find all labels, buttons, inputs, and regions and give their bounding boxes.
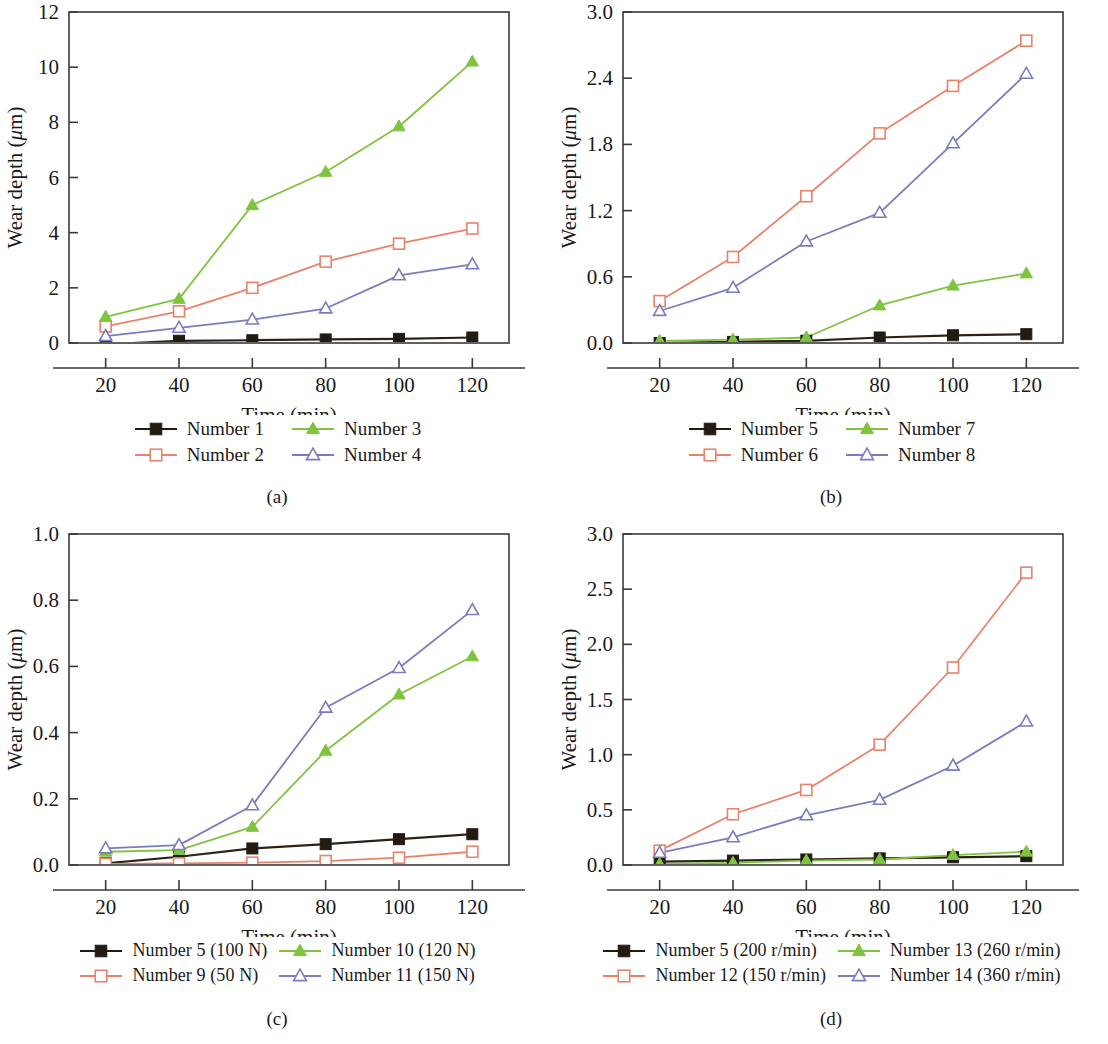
legend-item[interactable]: Number 9 (50 N)	[78, 965, 267, 986]
legend-item-label: Number 14 (360 r/min)	[890, 965, 1061, 986]
legend-item[interactable]: Number 5 (200 r/min)	[601, 940, 826, 961]
legend-item[interactable]: Number 6	[687, 444, 818, 466]
legend-marker-open-square	[78, 966, 124, 986]
legend-item[interactable]: Number 12 (150 r/min)	[601, 965, 826, 986]
x-tick-label: 40	[723, 373, 744, 397]
y-tick-label: 1.5	[587, 688, 613, 712]
data-point-marker	[948, 662, 959, 673]
y-tick-label: 0.5	[587, 798, 613, 822]
legend-marker-open-square	[601, 966, 647, 986]
data-point-marker	[1021, 567, 1032, 578]
legend-item-label: Number 5 (100 N)	[132, 940, 267, 961]
series-line	[106, 62, 473, 317]
data-point-marker	[1021, 35, 1032, 46]
y-tick-label: 0.2	[33, 787, 59, 811]
y-tick-label: 0.0	[587, 853, 613, 877]
legend-item-label: Number 1	[187, 418, 264, 440]
y-tick-label: 1.0	[33, 522, 59, 546]
data-point-marker	[947, 759, 959, 770]
legend-item-label: Number 7	[898, 418, 975, 440]
x-tick-label: 40	[723, 895, 744, 919]
y-tick-label: 2.0	[587, 632, 613, 656]
legend-marker-filled-square	[601, 941, 647, 961]
y-tick-label: 0.8	[33, 588, 59, 612]
data-point-marker	[247, 857, 258, 868]
y-tick-label: 2.5	[587, 577, 613, 601]
legend-item-label: Number 9 (50 N)	[132, 965, 258, 986]
data-point-marker	[173, 839, 185, 850]
legend-c: Number 5 (100 N)Number 10 (120 N)Number …	[0, 940, 554, 986]
x-tick-label: 20	[95, 373, 116, 397]
legend-item[interactable]: Number 1	[133, 418, 264, 440]
data-point-marker	[174, 335, 185, 346]
legend-item[interactable]: Number 3	[290, 418, 421, 440]
legend-item[interactable]: Number 8	[844, 444, 975, 466]
legend-marker-filled-triangle	[277, 941, 323, 961]
legend-item-label: Number 3	[344, 418, 421, 440]
x-tick-label: 20	[649, 895, 670, 919]
series-line	[106, 834, 473, 863]
y-tick-label: 0.0	[33, 853, 59, 877]
x-tick-label: 100	[937, 373, 969, 397]
x-tick-label: 60	[242, 895, 263, 919]
legend-item[interactable]: Number 13 (260 r/min)	[836, 940, 1061, 961]
series-layer	[654, 35, 1033, 348]
legend-item[interactable]: Number 7	[844, 418, 975, 440]
legend-marker-filled-square	[78, 941, 124, 961]
data-point-marker	[727, 281, 739, 292]
legend-item[interactable]: Number 5	[687, 418, 818, 440]
y-axis-title: Wear depth (μm)	[557, 629, 581, 771]
y-tick-label: 0.6	[587, 265, 613, 289]
data-point-marker	[320, 166, 332, 177]
data-point-marker	[320, 839, 331, 850]
legend-item[interactable]: Number 2	[133, 444, 264, 466]
x-axis-title: Time (min)	[241, 403, 336, 415]
x-tick-label: 40	[169, 373, 190, 397]
x-tick-label: 120	[1011, 373, 1043, 397]
legend-marker-filled-triangle	[844, 419, 890, 439]
series-line	[660, 334, 1027, 343]
data-point-marker	[467, 846, 478, 857]
x-tick-label: 80	[869, 895, 890, 919]
data-point-marker	[801, 191, 812, 202]
x-tick-label: 40	[169, 895, 190, 919]
data-point-marker	[394, 852, 405, 863]
data-point-marker	[394, 834, 405, 845]
legend-a: Number 1Number 3Number 2Number 4	[0, 418, 554, 466]
legend-item-label: Number 8	[898, 444, 975, 466]
legend-item[interactable]: Number 4	[290, 444, 421, 466]
legend-item-label: Number 12 (150 r/min)	[655, 965, 826, 986]
legend-item[interactable]: Number 11 (150 N)	[277, 965, 475, 986]
data-point-marker	[320, 701, 332, 712]
data-point-marker	[320, 256, 331, 267]
legend-marker-open-square	[133, 445, 179, 465]
y-tick-label: 10	[38, 55, 59, 79]
chart-plot: 0.00.51.01.52.02.53.020406080100120Time …	[554, 522, 1108, 937]
series-line	[106, 610, 473, 848]
data-point-marker	[948, 330, 959, 341]
data-point-marker	[948, 80, 959, 91]
x-tick-label: 20	[649, 373, 670, 397]
chart-plot: 02468101220406080100120Time (min)Wear de…	[0, 0, 554, 415]
legend-item[interactable]: Number 10 (120 N)	[277, 940, 475, 961]
x-tick-label: 60	[796, 373, 817, 397]
y-tick-label: 2.4	[587, 66, 614, 90]
series-line	[660, 722, 1027, 853]
series-line	[660, 74, 1027, 311]
data-point-marker	[466, 604, 478, 615]
figure-grid: 02468101220406080100120Time (min)Wear de…	[0, 0, 1108, 1044]
chart-panel-b: 0.00.61.21.82.43.020406080100120Time (mi…	[554, 0, 1108, 522]
legend-item[interactable]: Number 14 (360 r/min)	[836, 965, 1061, 986]
legend-marker-open-triangle	[277, 966, 323, 986]
chart-b: 0.00.61.21.82.43.020406080100120Time (mi…	[554, 0, 1108, 415]
legend-item[interactable]: Number 5 (100 N)	[78, 940, 267, 961]
x-axis-title: Time (min)	[795, 925, 890, 937]
data-point-marker	[728, 809, 739, 820]
legend-item-label: Number 11 (150 N)	[331, 965, 475, 986]
chart-a: 02468101220406080100120Time (min)Wear de…	[0, 0, 554, 415]
data-point-marker	[100, 859, 111, 870]
data-point-marker	[728, 251, 739, 262]
x-tick-label: 120	[457, 373, 489, 397]
legend-marker-filled-square	[133, 419, 179, 439]
y-tick-label: 0	[49, 331, 60, 355]
